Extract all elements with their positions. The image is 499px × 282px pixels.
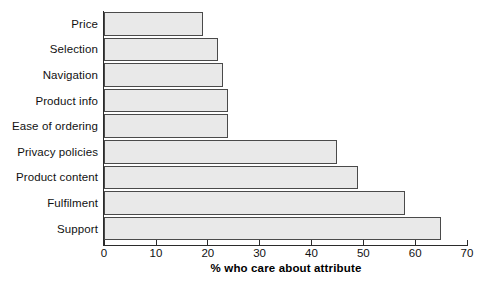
category-label-selection: Selection	[50, 43, 98, 55]
x-tick-70	[467, 240, 468, 245]
category-label-product-content: Product content	[16, 171, 98, 183]
bar-row: Fulfilment	[0, 190, 499, 216]
bar-row: Support	[0, 216, 499, 242]
bar-row: Price	[0, 11, 499, 37]
bar-track	[104, 166, 499, 190]
x-tick-50	[363, 240, 364, 245]
x-tick-label-40: 40	[305, 247, 318, 259]
category-label-product-info: Product info	[35, 95, 98, 107]
bar-track	[104, 114, 499, 138]
bar-selection	[104, 38, 218, 62]
category-label-support: Support	[57, 223, 98, 235]
bar-row: Product info	[0, 88, 499, 114]
bar-product-info	[104, 89, 228, 113]
bar-row: Navigation	[0, 62, 499, 88]
x-tick-label-50: 50	[357, 247, 370, 259]
bar-track	[104, 217, 499, 241]
category-label-fulfilment: Fulfilment	[47, 197, 98, 209]
x-tick-label-20: 20	[201, 247, 214, 259]
x-tick-label-0: 0	[101, 247, 107, 259]
bar-track	[104, 38, 499, 62]
plot-area: Price Selection Navigation Product info	[0, 0, 499, 282]
x-tick-60	[415, 240, 416, 245]
category-label-ease-of-ordering: Ease of ordering	[12, 120, 98, 132]
x-tick-label-10: 10	[150, 247, 163, 259]
bar-track	[104, 63, 499, 87]
bar-chart: Price Selection Navigation Product info	[0, 0, 499, 282]
bar-ease-of-ordering	[104, 114, 228, 138]
category-label-privacy-policies: Privacy policies	[17, 146, 98, 158]
bar-track	[104, 89, 499, 113]
bar-price	[104, 12, 203, 36]
category-label-price: Price	[71, 18, 98, 30]
bar-privacy-policies	[104, 140, 337, 164]
bar-row: Product content	[0, 165, 499, 191]
category-label-navigation: Navigation	[43, 69, 98, 81]
x-tick-30	[259, 240, 260, 245]
x-tick-label-30: 30	[253, 247, 266, 259]
bar-product-content	[104, 166, 358, 190]
x-axis-title: % who care about attribute	[104, 262, 468, 274]
bar-support	[104, 217, 441, 241]
bar-fulfilment	[104, 191, 405, 215]
bar-track	[104, 191, 499, 215]
bar-row: Ease of ordering	[0, 113, 499, 139]
x-tick-40	[311, 240, 312, 245]
x-tick-0	[104, 240, 105, 245]
y-axis-line	[103, 11, 104, 245]
x-tick-10	[156, 240, 157, 245]
x-tick-label-60: 60	[409, 247, 422, 259]
bar-track	[104, 140, 499, 164]
bar-track	[104, 12, 499, 36]
bar-rows: Price Selection Navigation Product info	[0, 11, 499, 243]
bar-row: Selection	[0, 37, 499, 63]
x-tick-20	[207, 240, 208, 245]
bar-navigation	[104, 63, 223, 87]
x-tick-label-70: 70	[461, 247, 474, 259]
bar-row: Privacy policies	[0, 139, 499, 165]
